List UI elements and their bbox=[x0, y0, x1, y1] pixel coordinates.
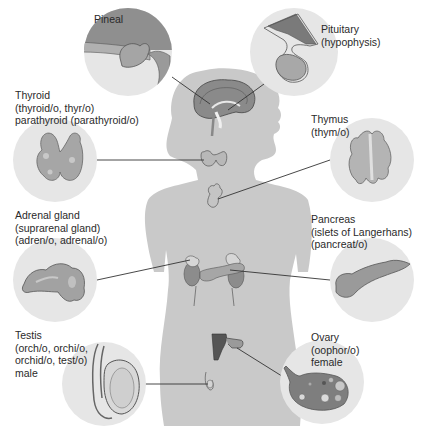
label-adrenal: Adrenal gland (suprarenal gland) (adren/… bbox=[15, 209, 107, 247]
thymus-title: Thymus bbox=[311, 113, 350, 126]
thyroid-title: Thyroid bbox=[15, 89, 139, 102]
thymus-roots: (thym/o) bbox=[311, 126, 350, 139]
label-pineal: Pineal bbox=[94, 13, 123, 26]
label-testis: Testis (orch/o, orchi/o, orchid/o, test/… bbox=[15, 329, 88, 379]
ovary-sex: female bbox=[311, 356, 359, 369]
label-pituitary: Pituitary (hypophysis) bbox=[321, 23, 381, 48]
pituitary-title: Pituitary bbox=[321, 23, 381, 36]
label-thyroid: Thyroid (thyroid/o, thyr/o) parathyroid … bbox=[15, 89, 139, 127]
adrenal-title: Adrenal gland bbox=[15, 209, 107, 222]
ovary-title: Ovary bbox=[311, 331, 359, 344]
pancreas-circle bbox=[330, 238, 414, 322]
testis-title: Testis bbox=[15, 329, 88, 342]
testis-roots-1: (orch/o, orchi/o, bbox=[15, 342, 88, 355]
pancreas-title: Pancreas bbox=[311, 213, 412, 226]
testis-roots-2: orchid/o, test/o) bbox=[15, 354, 88, 367]
label-ovary: Ovary (oophor/o) female bbox=[311, 331, 359, 369]
label-pancreas: Pancreas (islets of Langerhans) (pancrea… bbox=[311, 213, 412, 251]
thyroid-circle bbox=[13, 118, 97, 202]
adrenal-roots: (adren/o, adrenal/o) bbox=[15, 234, 107, 247]
testis-sex: male bbox=[15, 367, 88, 380]
pituitary-subtitle: (hypophysis) bbox=[321, 36, 381, 49]
adrenal-alt-name: (suprarenal gland) bbox=[15, 222, 107, 235]
ovary-roots: (oophor/o) bbox=[311, 344, 359, 357]
label-thymus: Thymus (thym/o) bbox=[311, 113, 350, 138]
pancreas-roots: (pancreat/o) bbox=[311, 238, 412, 251]
parathyroid-roots: parathyroid (parathyroid/o) bbox=[15, 114, 139, 127]
pineal-title: Pineal bbox=[94, 13, 123, 26]
endocrine-diagram: Pineal Pituitary (hypophysis) Thyroid (t… bbox=[0, 0, 421, 433]
thyroid-roots: (thyroid/o, thyr/o) bbox=[15, 102, 139, 115]
pancreas-alt-name: (islets of Langerhans) bbox=[311, 226, 412, 239]
adrenal-circle bbox=[13, 238, 97, 322]
pituitary-circle bbox=[250, 8, 338, 96]
